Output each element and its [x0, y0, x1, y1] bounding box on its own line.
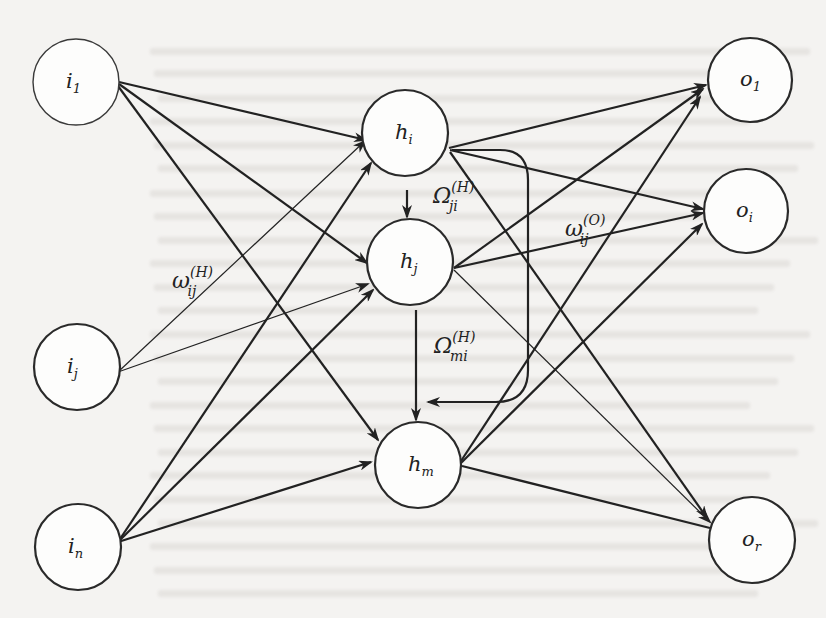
- node-or: or: [709, 497, 795, 583]
- node-hm: hm: [375, 422, 461, 508]
- node-i1: i1: [33, 39, 119, 125]
- node-o1: o1: [708, 38, 792, 122]
- edge-in-to-hm: [118, 462, 371, 542]
- weight-label-w_ij_H: ω(H)ij: [172, 264, 213, 299]
- node-in: in: [35, 504, 121, 590]
- node-oi: oi: [704, 169, 788, 253]
- weight-label-Omega_mi_H: Ω(H)mi: [433, 329, 475, 364]
- edge-i1-to-hm: [118, 86, 378, 440]
- edge-hj-to-or: [454, 270, 710, 522]
- edge-hi-to-o1: [449, 85, 706, 148]
- edge-in-to-hi: [118, 163, 371, 542]
- neural-network-diagram: i1ijinhihjhmo1oior ω(H)ijΩ(H)jiω(O)ijΩ(H…: [0, 0, 826, 618]
- edge-hi-to-or: [450, 152, 707, 518]
- edge-hm-to-o1: [461, 97, 700, 461]
- node-hj: hj: [367, 219, 453, 305]
- edge-ij-to-hj: [118, 284, 368, 372]
- edge-hm-to-oi: [461, 224, 702, 463]
- edge-hm-to-or: [462, 466, 710, 528]
- nodes-layer: i1ijinhihjhmo1oior: [33, 38, 795, 590]
- edge-ij-to-hi: [118, 141, 365, 372]
- weight-label-Omega_ji_H: Ω(H)ji: [432, 179, 474, 214]
- edge-in-to-hj: [118, 290, 373, 542]
- node-hi: hi: [362, 90, 448, 176]
- node-ij: ij: [34, 324, 120, 410]
